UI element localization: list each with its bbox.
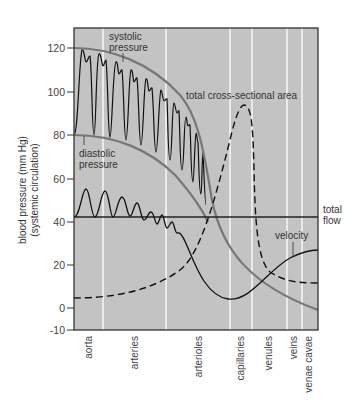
y-axis-label: blood pressure (mm Hg) (systemic circula… bbox=[17, 136, 40, 244]
x-category-labels: aorta arteries arterioles capillaries ve… bbox=[83, 336, 314, 393]
svg-text:pressure: pressure bbox=[79, 159, 118, 170]
svg-text:venae cavae: venae cavae bbox=[303, 336, 314, 393]
svg-text:systolic: systolic bbox=[109, 31, 142, 42]
svg-text:venules: venules bbox=[263, 336, 274, 370]
plot-area bbox=[74, 28, 318, 330]
blood-pressure-chart: 120 100 80 60 40 20 0 -10 blood pressure… bbox=[0, 0, 359, 414]
svg-text:pressure: pressure bbox=[109, 42, 148, 53]
total-flow-annotation: total flow bbox=[323, 204, 342, 226]
svg-text:capillaries: capillaries bbox=[235, 336, 246, 380]
svg-text:flow: flow bbox=[323, 215, 342, 226]
svg-text:velocity: velocity bbox=[275, 230, 308, 241]
cross-sectional-area-annotation: total cross-sectional area bbox=[186, 90, 298, 101]
svg-text:60: 60 bbox=[53, 173, 65, 185]
svg-text:aorta: aorta bbox=[83, 336, 94, 359]
svg-text:0: 0 bbox=[59, 302, 65, 314]
svg-text:diastolic: diastolic bbox=[79, 148, 115, 159]
svg-text:(systemic circulation): (systemic circulation) bbox=[29, 143, 40, 236]
svg-text:blood pressure (mm Hg): blood pressure (mm Hg) bbox=[17, 136, 28, 244]
svg-text:total: total bbox=[323, 204, 342, 215]
svg-text:veins: veins bbox=[288, 336, 299, 359]
y-axis-ticks bbox=[67, 48, 74, 330]
svg-text:100: 100 bbox=[47, 86, 65, 98]
svg-text:120: 120 bbox=[47, 42, 65, 54]
svg-text:80: 80 bbox=[53, 129, 65, 141]
svg-text:20: 20 bbox=[53, 259, 65, 271]
svg-text:arteries: arteries bbox=[129, 336, 140, 369]
svg-text:-10: -10 bbox=[50, 324, 65, 336]
svg-text:arterioles: arterioles bbox=[193, 336, 204, 377]
svg-text:40: 40 bbox=[53, 216, 65, 228]
y-axis-tick-labels: 120 100 80 60 40 20 0 -10 bbox=[47, 42, 65, 336]
